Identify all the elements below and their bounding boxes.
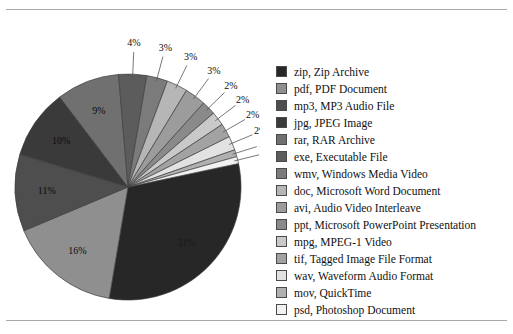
- legend-item[interactable]: ppt, Microsoft PowerPoint Presentation: [276, 216, 508, 233]
- pie-slice-value-label: 9%: [92, 105, 105, 116]
- pie-slice-value-label: 2%: [254, 125, 260, 136]
- figure-bottom-rule: [6, 320, 507, 321]
- pie-leader-line: [234, 155, 259, 161]
- legend-item[interactable]: jpg, JPEG Image: [276, 114, 508, 131]
- legend-item[interactable]: avi, Audio Video Interleave: [276, 199, 508, 216]
- legend-item[interactable]: mp3, MP3 Audio File: [276, 97, 508, 114]
- legend-swatch-icon: [276, 304, 287, 315]
- legend-item[interactable]: wmv, Windows Media Video: [276, 165, 508, 182]
- legend-item-label: zip, Zip Archive: [294, 66, 369, 78]
- pie-slice-value-label: 10%: [52, 135, 70, 146]
- legend-swatch-icon: [276, 66, 287, 77]
- pie-slice-value-label: 31%: [178, 237, 196, 248]
- legend-item-label: wmv, Windows Media Video: [294, 168, 428, 180]
- pie-leader-line: [233, 147, 257, 155]
- figure-top-rule: [6, 9, 507, 10]
- pie-leader-line: [193, 79, 208, 99]
- pie-leader-line: [156, 57, 163, 82]
- legend-item[interactable]: mpg, MPEG-1 Video: [276, 233, 508, 250]
- legend-item[interactable]: wav, Waveform Audio Format: [276, 267, 508, 284]
- pie-leader-line: [206, 93, 224, 111]
- legend-item-label: mpg, MPEG-1 Video: [294, 236, 392, 248]
- pie-slice-value-label: 4%: [127, 37, 140, 48]
- pie-slice-value-label: 3%: [207, 65, 220, 76]
- pie-slice-value-label: 16%: [68, 245, 86, 256]
- legend-item-label: ppt, Microsoft PowerPoint Presentation: [294, 219, 476, 231]
- legend-item[interactable]: psd, Photoshop Document: [276, 301, 508, 318]
- pie-leader-line: [229, 135, 253, 145]
- legend-swatch-icon: [276, 100, 287, 111]
- pie-chart-figure: 31%16%11%10%9%4%3%3%3%2%2%2%2%1%1% zip, …: [0, 0, 513, 334]
- legend-item-label: pdf, PDF Document: [294, 83, 387, 95]
- legend-item[interactable]: exe, Executable File: [276, 148, 508, 165]
- pie-slice-value-label: 3%: [159, 42, 172, 53]
- legend-swatch-icon: [276, 219, 287, 230]
- legend-item-label: psd, Photoshop Document: [294, 304, 415, 316]
- legend-swatch-icon: [276, 236, 287, 247]
- pie-slice-value-label: 11%: [38, 185, 56, 196]
- legend-item[interactable]: mov, QuickTime: [276, 284, 508, 301]
- pie-leader-line: [223, 120, 245, 133]
- legend-item[interactable]: tif, Tagged Image File Format: [276, 250, 508, 267]
- legend-swatch-icon: [276, 151, 287, 162]
- legend-item-label: doc, Microsoft Word Document: [294, 185, 440, 197]
- pie-slice-value-label: 2%: [246, 109, 259, 120]
- pie-slice-value-label: 1%: [259, 138, 260, 149]
- legend-item-label: avi, Audio Video Interleave: [294, 202, 421, 214]
- legend-item-label: rar, RAR Archive: [294, 134, 375, 146]
- legend-swatch-icon: [276, 117, 287, 128]
- pie-svg: 31%16%11%10%9%4%3%3%3%2%2%2%2%1%1%: [4, 12, 260, 318]
- pie-slice-value-label: 2%: [224, 80, 237, 91]
- legend-item-label: tif, Tagged Image File Format: [294, 253, 432, 265]
- legend-item-label: jpg, JPEG Image: [294, 117, 372, 129]
- legend-swatch-icon: [276, 202, 287, 213]
- pie-plot-area: 31%16%11%10%9%4%3%3%3%2%2%2%2%1%1%: [4, 12, 260, 318]
- legend-item[interactable]: zip, Zip Archive: [276, 63, 508, 80]
- legend-item[interactable]: pdf, PDF Document: [276, 80, 508, 97]
- legend: zip, Zip Archivepdf, PDF Documentmp3, MP…: [276, 63, 508, 318]
- legend-item-label: exe, Executable File: [294, 151, 388, 163]
- pie-leader-line: [176, 66, 187, 89]
- pie-leader-line: [133, 52, 134, 77]
- legend-item[interactable]: doc, Microsoft Word Document: [276, 182, 508, 199]
- pie-slice-value-label: 2%: [236, 94, 249, 105]
- legend-item-label: wav, Waveform Audio Format: [294, 270, 433, 282]
- legend-swatch-icon: [276, 287, 287, 298]
- pie-slice-value-label: 3%: [184, 51, 197, 62]
- legend-item[interactable]: rar, RAR Archive: [276, 131, 508, 148]
- legend-item-label: mov, QuickTime: [294, 287, 371, 299]
- legend-swatch-icon: [276, 253, 287, 264]
- legend-swatch-icon: [276, 83, 287, 94]
- legend-swatch-icon: [276, 168, 287, 179]
- pie-leader-line: [215, 105, 235, 120]
- legend-swatch-icon: [276, 134, 287, 145]
- legend-swatch-icon: [276, 185, 287, 196]
- legend-item-label: mp3, MP3 Audio File: [294, 100, 394, 112]
- legend-swatch-icon: [276, 270, 287, 281]
